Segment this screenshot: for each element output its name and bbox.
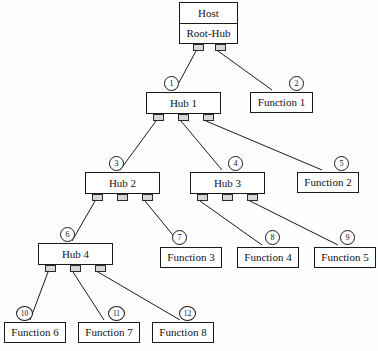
node-func2: Function 2 [297,172,359,193]
node-label-func7: Function 7 [85,327,132,338]
tier-bubble-11: 11 [108,306,125,321]
downstream-port-hub3-1 [197,194,208,201]
downstream-port-hub1-1 [153,114,164,121]
tier-bubble-10: 10 [16,306,33,321]
downstream-port-hub2-3 [142,194,153,201]
node-label-func5: Function 5 [321,252,368,263]
node-label-func1: Function 1 [258,97,305,108]
downstream-port-host-1 [193,44,204,51]
downstream-port-hub3-3 [247,194,258,201]
node-label-hub3: Hub 3 [214,178,241,189]
node-hub1: Hub 1 [146,92,221,114]
node-label-hub4: Hub 4 [62,249,89,260]
node-func3: Function 3 [160,247,222,268]
downstream-port-hub2-2 [117,194,128,201]
downstream-port-hub4-1 [45,265,56,272]
node-func8: Function 8 [152,322,214,343]
node-hub2: Hub 2 [85,172,160,194]
tier-bubble-9: 9 [340,230,355,245]
edge-host-to-func1 [218,51,272,90]
edge-hub3-to-func4 [200,201,262,245]
edge-hub1-to-hub2 [120,121,156,170]
tier-bubble-4: 4 [228,156,243,171]
downstream-port-hub1-2 [178,114,189,121]
node-hub4: Hub 4 [38,243,113,265]
tier-bubble-7: 7 [172,230,187,245]
node-func6: Function 6 [4,322,66,343]
node-label-func4: Function 4 [244,252,291,263]
edge-hub1-to-hub3 [181,121,222,170]
node-func1: Function 1 [250,92,313,113]
node-host: HostRoot-Hub [179,2,238,44]
downstream-port-host-2 [215,44,226,51]
edge-hub2-to-hub4 [72,201,95,241]
edge-hub1-to-func2 [206,121,322,170]
node-func7: Function 7 [78,322,140,343]
tier-bubble-3: 3 [109,156,124,171]
tier-bubble-1: 1 [164,76,179,91]
node-label-hub2: Hub 2 [109,178,136,189]
node-func5: Function 5 [314,247,376,268]
usb-topology-diagram: HostRoot-HubHub 1Hub 2Hub 3Hub 4Function… [0,0,378,351]
node-label-func6: Function 6 [11,327,58,338]
node-label-root-hub: Root-Hub [180,24,237,44]
tier-bubble-8: 8 [265,230,280,245]
tier-bubble-6: 6 [60,227,75,242]
tier-bubble-2: 2 [289,76,304,91]
downstream-port-hub1-3 [203,114,214,121]
node-label-host: Host [180,3,237,24]
downstream-port-hub3-2 [222,194,233,201]
downstream-port-hub2-1 [92,194,103,201]
downstream-port-hub4-2 [70,265,81,272]
edge-hub3-to-func5 [250,201,338,245]
node-label-func8: Function 8 [159,327,206,338]
node-label-func2: Function 2 [304,177,351,188]
downstream-port-hub4-3 [95,265,106,272]
node-label-hub1: Hub 1 [170,98,197,109]
tier-bubble-5: 5 [334,156,349,171]
edge-hub4-to-func7 [73,272,104,320]
tier-bubble-12: 12 [179,306,196,321]
node-hub3: Hub 3 [190,172,265,194]
node-label-func3: Function 3 [167,252,214,263]
node-func4: Function 4 [237,247,299,268]
